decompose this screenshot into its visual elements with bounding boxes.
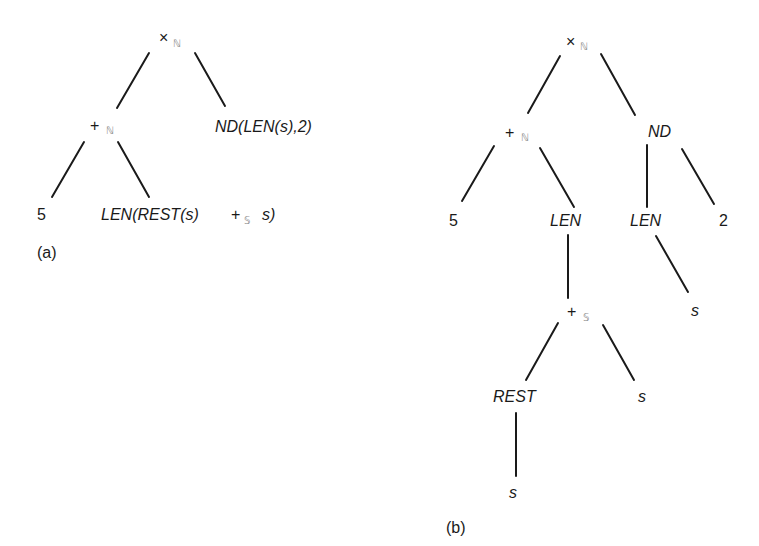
node-b-plus: +	[505, 124, 514, 141]
node-b-plus-strings: +	[567, 303, 576, 320]
edge-a-plus-5	[52, 142, 84, 197]
node-b-leaf-s: s	[638, 388, 646, 405]
node-b-leaf-5: 5	[449, 212, 458, 229]
tree-a: × ℕ + ℕ ND(LEN(s),2) 5 LEN(REST(s) + 𝕊 s…	[37, 29, 312, 261]
node-b-leaf-s: s	[691, 302, 699, 319]
subscript-strings: 𝕊	[244, 215, 250, 226]
node-a-len-expression: LEN(REST(s)	[101, 206, 199, 223]
edge-b-plus-5	[462, 146, 494, 201]
edge-a-plus-len	[118, 142, 149, 197]
tree-b: × ℕ + ℕ ND 5 LEN LEN 2 s + 𝕊 REST s s (b…	[446, 33, 728, 536]
node-b-rest: REST	[493, 388, 537, 405]
node-b-root-times: ×	[566, 33, 575, 50]
edge-b-plus-len	[540, 148, 574, 207]
node-a-len-tail: s)	[262, 206, 275, 223]
edge-b-root-nd	[601, 54, 635, 115]
node-a-nd-expression: ND(LEN(s),2)	[215, 118, 312, 135]
edge-b-root-plus	[528, 56, 560, 113]
caption-b: (b)	[446, 519, 466, 536]
edge-b-len-s	[656, 236, 688, 292]
subscript-naturals: ℕ	[521, 132, 529, 143]
node-a-plus-op: +	[231, 206, 240, 223]
node-b-leaf-2: 2	[719, 212, 728, 229]
caption-a: (a)	[37, 244, 57, 261]
subscript-naturals: ℕ	[106, 125, 114, 136]
edge-a-root-nd	[195, 53, 225, 106]
node-b-nd: ND	[648, 123, 672, 140]
edge-b-plus-rest	[526, 323, 558, 380]
node-a-plus: +	[90, 117, 99, 134]
edge-b-plus-s	[603, 325, 634, 380]
node-a-leaf-5: 5	[37, 206, 46, 223]
edge-b-nd-2	[682, 149, 714, 204]
node-b-leaf-s: s	[509, 484, 517, 501]
node-b-len-left: LEN	[550, 212, 582, 229]
node-b-len-right: LEN	[630, 212, 662, 229]
edge-a-root-plus	[117, 53, 149, 108]
subscript-naturals: ℕ	[173, 38, 181, 49]
node-a-root-times: ×	[159, 29, 168, 46]
subscript-naturals: ℕ	[580, 41, 588, 52]
subscript-strings: 𝕊	[583, 312, 589, 323]
parse-tree-figure: × ℕ + ℕ ND(LEN(s),2) 5 LEN(REST(s) + 𝕊 s…	[0, 0, 759, 546]
